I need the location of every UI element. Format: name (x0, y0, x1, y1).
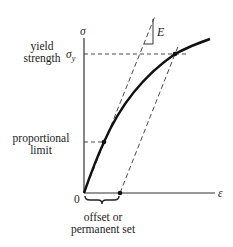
offset-label-line2: permanent set (70, 223, 136, 235)
offset-point (118, 191, 123, 196)
yield-strength-label: yield strength (22, 40, 62, 64)
offset-brace (85, 196, 119, 204)
modulus-label: E (157, 26, 164, 38)
epsilon-axis-label: ε (218, 187, 223, 199)
stress-strain-diagram (0, 0, 233, 247)
sigma-y-label: σy (66, 48, 75, 65)
sigma-y-subscript: y (72, 54, 76, 63)
offset-label: offset or permanent set (70, 211, 136, 235)
yield-label-line1: yield (22, 40, 62, 52)
prop-label-line2: limit (8, 144, 74, 156)
prop-label-line1: proportional (8, 132, 74, 144)
yield-label-line2: strength (22, 52, 62, 64)
yield-point (173, 52, 178, 57)
proportional-limit-point (102, 140, 107, 145)
sigma-axis-label: σ (80, 25, 86, 37)
proportional-limit-label: proportional limit (8, 132, 74, 156)
offset-line (120, 44, 179, 193)
offset-label-line1: offset or (70, 211, 136, 223)
stress-strain-curve (84, 39, 210, 193)
origin-label: 0 (74, 193, 80, 205)
